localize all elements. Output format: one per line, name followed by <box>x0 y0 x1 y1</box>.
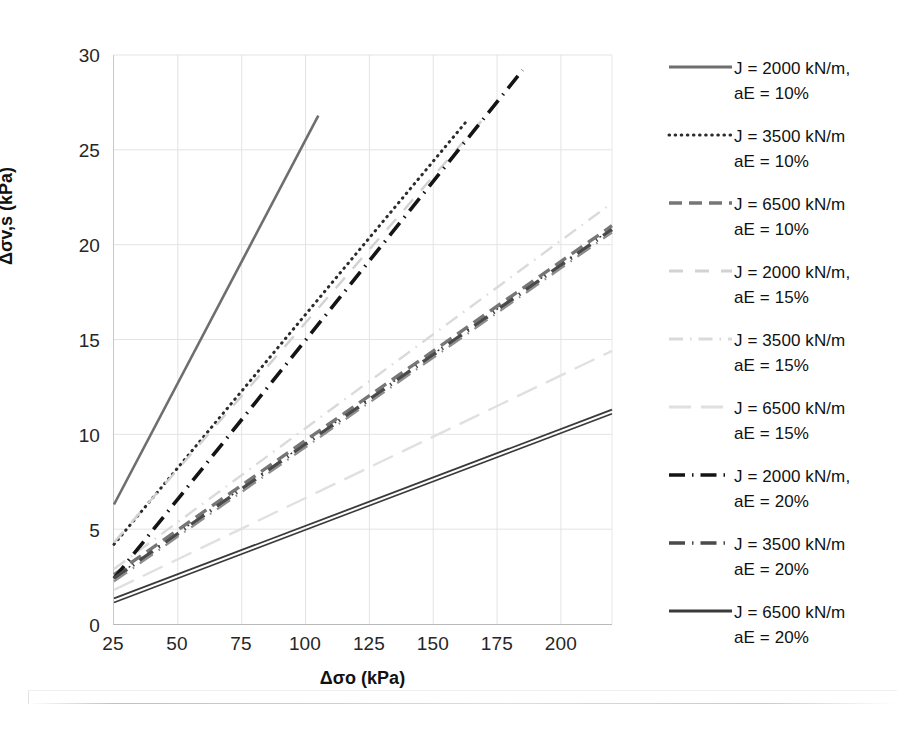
series-line <box>114 410 612 599</box>
line-key-dashed-light <box>668 261 734 281</box>
legend-item[interactable]: J = 6500 kN/m aE = 15% <box>668 396 898 464</box>
legend-label: J = 2000 kN/m, aE = 15% <box>734 260 850 310</box>
series-1 <box>114 116 318 505</box>
scan-artifact-edge <box>28 690 897 704</box>
x-tick-label: 50 <box>142 634 212 653</box>
y-axis-label: Δσv,s (kPa) <box>0 167 17 265</box>
scan-artifact-line <box>28 703 896 704</box>
series-5 <box>114 203 612 569</box>
x-tick-label: 100 <box>270 634 340 653</box>
y-tick-label: 20 <box>54 236 100 255</box>
series-6 <box>114 351 612 590</box>
line-key-dashdot-black <box>668 465 734 485</box>
legend-label: J = 2000 kN/m, aE = 10% <box>734 56 850 106</box>
line-key-solid-gray <box>668 57 734 77</box>
plot-area <box>113 55 612 625</box>
legend-item[interactable]: J = 2000 kN/m, aE = 10% <box>668 56 898 124</box>
series-line <box>114 203 612 569</box>
legend-label: J = 6500 kN/m aE = 20% <box>734 600 845 650</box>
x-axis-ticks: 255075100125150175200 <box>113 634 612 664</box>
legend-item[interactable]: J = 3500 kN/m aE = 15% <box>668 328 898 396</box>
series-line-shadow <box>114 414 612 603</box>
x-tick-label: 125 <box>334 634 404 653</box>
series-3 <box>114 226 612 578</box>
legend-item[interactable]: J = 6500 kN/m aE = 10% <box>668 192 898 260</box>
line-key-dotted <box>668 125 734 145</box>
x-tick-label: 175 <box>462 634 532 653</box>
y-tick-label: 25 <box>54 141 100 160</box>
line-key-dashdot-thick <box>668 533 734 553</box>
y-axis-ticks: 051015202530 <box>40 55 100 625</box>
series-line <box>114 351 612 590</box>
series-7 <box>114 70 523 578</box>
y-tick-label: 15 <box>54 331 100 350</box>
y-tick-label: 0 <box>54 616 100 635</box>
legend-label: J = 3500 kN/m aE = 15% <box>734 328 845 378</box>
legend-item[interactable]: J = 6500 kN/m aE = 20% <box>668 600 898 668</box>
legend-item[interactable]: J = 2000 kN/m, aE = 20% <box>668 464 898 532</box>
line-key-solid-black <box>668 601 734 621</box>
legend-item[interactable]: J = 3500 kN/m aE = 10% <box>668 124 898 192</box>
legend-label: J = 6500 kN/m aE = 10% <box>734 192 845 242</box>
x-tick-label: 75 <box>206 634 276 653</box>
line-key-dashdot-light <box>668 329 734 349</box>
legend-label: J = 2000 kN/m, aE = 20% <box>734 464 850 514</box>
series-line <box>114 226 612 575</box>
x-tick-label: 25 <box>78 634 148 653</box>
legend-item[interactable]: J = 3500 kN/m aE = 20% <box>668 532 898 600</box>
y-tick-label: 30 <box>54 46 100 65</box>
y-tick-label: 10 <box>54 426 100 445</box>
series-9 <box>114 410 612 603</box>
legend-label: J = 6500 kN/m aE = 15% <box>734 396 845 446</box>
figure-canvas: 051015202530 Δσv,s (kPa) 255075100125150… <box>0 0 904 742</box>
line-key-longdash-light <box>668 397 734 417</box>
legend-label: J = 3500 kN/m aE = 20% <box>734 532 845 582</box>
x-tick-label: 200 <box>526 634 596 653</box>
legend-label: J = 3500 kN/m aE = 10% <box>734 124 845 174</box>
legend-item[interactable]: J = 2000 kN/m, aE = 15% <box>668 260 898 328</box>
line-key-dashed <box>668 193 734 213</box>
series-canvas <box>114 55 612 624</box>
x-axis-label: Δσo (kPa) <box>113 668 612 689</box>
x-tick-label: 150 <box>398 634 468 653</box>
y-tick-label: 5 <box>54 521 100 540</box>
series-line <box>114 116 318 505</box>
plot-wrapper: 051015202530 Δσv,s (kPa) 255075100125150… <box>0 0 660 700</box>
series-line <box>114 70 523 578</box>
chart-legend: J = 2000 kN/m, aE = 10%J = 3500 kN/m aE … <box>668 56 898 668</box>
